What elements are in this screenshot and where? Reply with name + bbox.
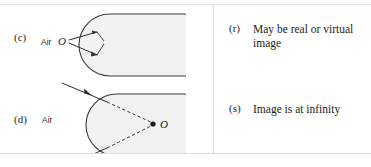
glass-body-d-fill [86, 94, 186, 153]
figure-panel: (c) (d) [0, 0, 371, 167]
right-column-options: (r) May be real or virtual image (s) Ima… [214, 5, 371, 153]
medium-label-c: Air [41, 37, 52, 47]
bottom-divider [0, 153, 371, 154]
option-text-r: May be real or virtual image [253, 22, 368, 50]
medium-label-d: Air [42, 115, 53, 125]
diagram-d-group: O Air [42, 83, 186, 153]
diagram-c-group: Air O [41, 14, 186, 76]
glass-body-c-fill [79, 14, 186, 76]
left-column-diagrams: (c) (d) [0, 5, 213, 153]
object-point-d [150, 121, 155, 126]
option-marker-s: (s) [229, 102, 241, 114]
option-text-s: Image is at infinity [253, 102, 371, 116]
object-label-c: O [58, 35, 66, 47]
object-label-d: O [160, 118, 168, 130]
optics-diagrams-svg: Air O [0, 5, 213, 153]
option-marker-r: (r) [229, 22, 240, 34]
